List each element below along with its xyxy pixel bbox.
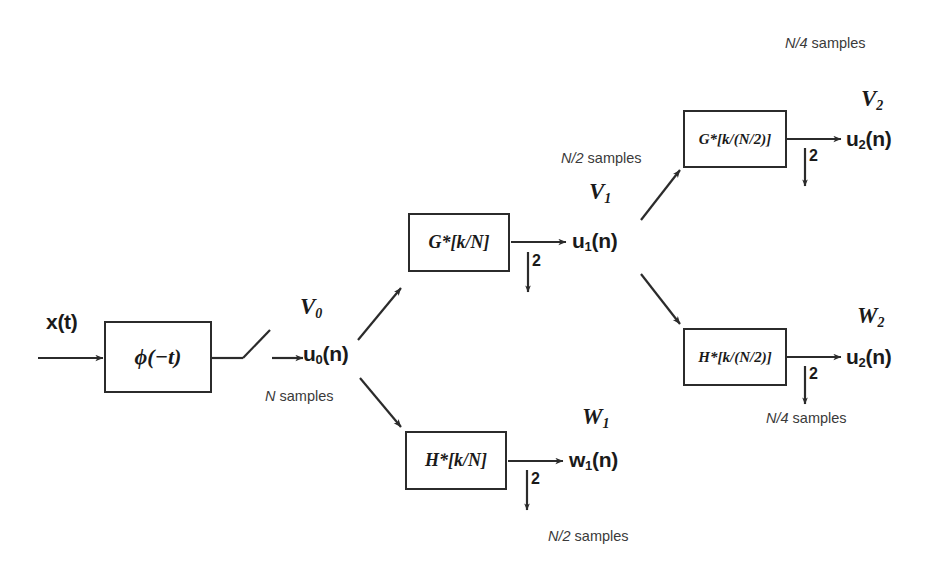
label-space-v0: V0 xyxy=(300,294,322,320)
label-space-v1: V1 xyxy=(589,179,611,205)
label-decimate-g2: 2 xyxy=(809,147,818,165)
note-stage1-upper-word: samples xyxy=(584,150,642,166)
label-signal-w1-sub: 1 xyxy=(585,458,592,473)
label-input-signal-text: x(t) xyxy=(46,310,77,333)
block-g2-highpass-label: G*[k/(N/2)] xyxy=(699,131,771,148)
label-signal-u0-base: u xyxy=(303,342,316,365)
note-stage2-upper-samples: N/4 samples xyxy=(785,35,866,51)
label-decimate-g1-factor: 2 xyxy=(532,252,541,269)
label-signal-u0: u0(n) xyxy=(303,342,348,366)
block-h2-lowpass-label: H*[k/(N/2)] xyxy=(698,349,771,366)
block-h1-lowpass[interactable]: H*[k/N] xyxy=(405,431,507,490)
note-stage2-upper-count: N/4 xyxy=(785,35,808,51)
label-signal-u1: u1(n) xyxy=(572,229,617,253)
label-space-w2-sub: 2 xyxy=(877,315,884,330)
note-stage1-upper-count: N/2 xyxy=(561,150,584,166)
wire-u1-to-g2 xyxy=(641,170,680,220)
label-signal-u2-lower: u2(n) xyxy=(846,345,891,369)
block-h1-lowpass-label: H*[k/N] xyxy=(425,450,487,471)
label-space-v0-base: V xyxy=(300,294,315,319)
label-signal-w1-tail: (n) xyxy=(592,448,618,471)
label-signal-u0-tail: (n) xyxy=(322,342,348,365)
label-signal-u2-lower-tail: (n) xyxy=(865,345,891,368)
label-space-v1-base: V xyxy=(589,179,604,204)
label-signal-u2-lower-sub: 2 xyxy=(859,355,866,370)
diagram-canvas: ϕ(−t) G*[k/N] H*[k/N] G*[k/(N/2)] H*[k/(… xyxy=(0,0,937,569)
label-space-v2-base: V xyxy=(861,86,876,111)
label-signal-u2-upper-tail: (n) xyxy=(865,127,891,150)
label-signal-u2-upper-sub: 2 xyxy=(859,137,866,152)
block-analysis-phi-label: ϕ(−t) xyxy=(135,344,182,370)
label-space-v2: V2 xyxy=(861,86,883,112)
label-signal-w1-base: w xyxy=(569,448,585,471)
note-stage2-lower-samples: N/4 samples xyxy=(766,410,847,426)
block-g1-highpass[interactable]: G*[k/N] xyxy=(408,213,510,272)
note-stage2-lower-count: N/4 xyxy=(766,410,789,426)
wire-u0-to-h1 xyxy=(360,378,401,427)
label-decimate-g1: 2 xyxy=(532,252,541,270)
label-space-w2: W2 xyxy=(857,303,884,329)
label-signal-w1: w1(n) xyxy=(569,448,618,472)
label-signal-u2-lower-base: u xyxy=(846,345,859,368)
block-h2-lowpass[interactable]: H*[k/(N/2)] xyxy=(683,328,787,386)
note-stage1-upper-samples: N/2 samples xyxy=(561,150,642,166)
block-analysis-phi[interactable]: ϕ(−t) xyxy=(104,321,212,393)
wire-u1-to-h2 xyxy=(641,274,680,324)
block-g2-highpass[interactable]: G*[k/(N/2)] xyxy=(683,110,787,168)
label-space-w2-base: W xyxy=(857,303,877,328)
label-signal-u1-sub: 1 xyxy=(585,239,592,254)
label-signal-u1-tail: (n) xyxy=(591,229,617,252)
label-signal-u0-sub: 0 xyxy=(316,352,323,367)
note-stage0-samples-count: N xyxy=(265,388,275,404)
note-stage2-lower-word: samples xyxy=(789,410,847,426)
label-signal-u1-base: u xyxy=(572,229,585,252)
label-decimate-h2: 2 xyxy=(809,365,818,383)
block-g1-highpass-label: G*[k/N] xyxy=(429,232,490,253)
note-stage1-lower-samples: N/2 samples xyxy=(548,528,629,544)
wire-u0-to-g1 xyxy=(358,288,401,340)
note-stage1-lower-count: N/2 xyxy=(548,528,571,544)
label-decimate-h1: 2 xyxy=(531,470,540,488)
label-signal-u2-upper: u2(n) xyxy=(846,127,891,151)
label-space-w1-base: W xyxy=(582,404,602,429)
note-stage1-lower-word: samples xyxy=(571,528,629,544)
label-decimate-g2-factor: 2 xyxy=(809,147,818,164)
label-decimate-h2-factor: 2 xyxy=(809,365,818,382)
label-space-v2-sub: 2 xyxy=(876,98,883,113)
label-decimate-h1-factor: 2 xyxy=(531,470,540,487)
switch-blade xyxy=(243,330,270,358)
note-stage2-upper-word: samples xyxy=(808,35,866,51)
note-stage0-samples: N samples xyxy=(265,388,334,404)
label-space-w1-sub: 1 xyxy=(602,416,609,431)
label-signal-u2-upper-base: u xyxy=(846,127,859,150)
label-space-w1: W1 xyxy=(582,404,609,430)
note-stage0-samples-word: samples xyxy=(275,388,333,404)
label-space-v1-sub: 1 xyxy=(604,191,611,206)
label-space-v0-sub: 0 xyxy=(315,306,322,321)
label-input-signal: x(t) xyxy=(46,310,77,334)
